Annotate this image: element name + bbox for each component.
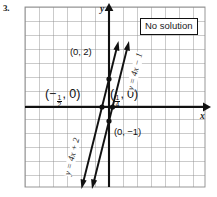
label-x-intercept-line2-open: ( bbox=[110, 87, 114, 101]
y-axis-label: y bbox=[100, 5, 104, 15]
label-y-intercept-line1: (0, 2) bbox=[70, 47, 92, 57]
point-0-2 bbox=[106, 76, 111, 81]
math-figure: 3. bbox=[0, 0, 217, 197]
label-x-intercept-line1: (−12, 0) bbox=[45, 88, 80, 109]
point-neg-half-0 bbox=[99, 104, 104, 109]
label-x-intercept-line1-open: (− bbox=[45, 87, 56, 101]
x-axis-label: x bbox=[200, 112, 205, 122]
answer-box: No solution bbox=[140, 18, 198, 35]
label-y-intercept-line2: (0, −1) bbox=[114, 127, 141, 137]
point-0-neg1 bbox=[106, 118, 111, 123]
fraction-one-half: 12 bbox=[57, 95, 63, 110]
label-x-intercept-line1-close: , 0) bbox=[63, 87, 81, 101]
